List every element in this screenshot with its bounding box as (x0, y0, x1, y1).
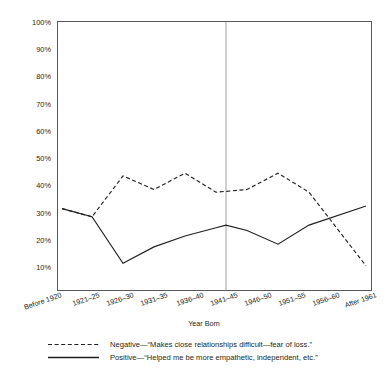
x-tick-label: 1936–40 (175, 290, 204, 308)
y-tick-label: 10% (36, 263, 51, 272)
x-tick-label: 1926–30 (105, 290, 134, 308)
plot-frame (58, 22, 372, 291)
y-tick-label: 70% (36, 100, 51, 109)
x-tick-label: 1941–45 (209, 290, 238, 308)
x-axis-title: Year Born (188, 319, 220, 328)
x-tick-label: Before 1920 (23, 290, 63, 311)
x-tick-label: After 1961 (343, 290, 377, 309)
x-axis-ticks: Before 1920 1921–25 1926–30 1931–35 1936… (23, 290, 378, 311)
y-tick-label: 40% (36, 181, 51, 190)
x-tick-label: 1931–35 (139, 290, 168, 308)
chart-legend: Negative—“Makes close relationships diff… (48, 340, 318, 362)
y-tick-label: 100% (32, 18, 51, 27)
line-chart: 100% 90% 80% 70% 60% 50% 40% 30% 20% 10%… (0, 0, 391, 374)
x-tick-label: 1946–50 (243, 290, 272, 308)
x-tick-label: 1921–25 (71, 290, 100, 308)
chart-container: 100% 90% 80% 70% 60% 50% 40% 30% 20% 10%… (0, 0, 391, 374)
series-positive-line (62, 206, 366, 263)
x-tick-label: 1956–60 (311, 290, 340, 308)
legend-label-negative: Negative—“Makes close relationships diff… (110, 340, 312, 349)
y-tick-label: 90% (36, 45, 51, 54)
y-tick-label: 80% (36, 72, 51, 81)
legend-label-positive: Positive—“Helped me be more empathetic, … (110, 353, 318, 362)
series-negative-line (62, 173, 366, 266)
x-tick-label: 1951–55 (277, 290, 306, 308)
y-tick-label: 60% (36, 127, 51, 136)
y-axis-ticks: 100% 90% 80% 70% 60% 50% 40% 30% 20% 10% (32, 18, 51, 273)
y-tick-label: 20% (36, 236, 51, 245)
y-tick-label: 30% (36, 209, 51, 218)
y-tick-label: 50% (36, 154, 51, 163)
